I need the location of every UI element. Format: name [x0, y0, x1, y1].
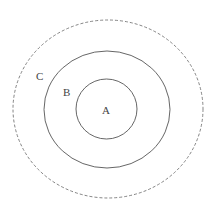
set-b-label: B [63, 86, 70, 98]
set-a-label: A [102, 104, 110, 116]
nested-circles-diagram: C B A [0, 0, 217, 215]
set-c-label: C [36, 70, 43, 82]
